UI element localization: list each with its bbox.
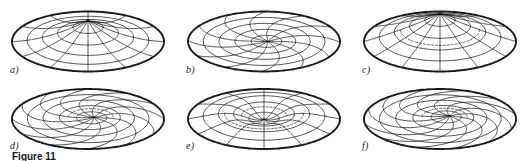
- surface-plot-a: [0, 0, 176, 77]
- surface-plot-b: [176, 0, 352, 77]
- panel-label-b: b): [186, 65, 195, 75]
- panel-label-c: c): [362, 65, 370, 75]
- figure-root: a) b) c) d) e) f) Figure 11: [0, 0, 528, 161]
- figure-caption: Figure 11: [12, 152, 56, 161]
- panel-label-e: e): [186, 141, 194, 151]
- panel-label-f: f): [362, 141, 369, 151]
- figure-caption-strip: Figure 11: [0, 152, 528, 161]
- surface-plot-d: [0, 77, 176, 155]
- surface-panel-e: e): [176, 77, 352, 155]
- surface-plot-e: [176, 77, 352, 155]
- surface-panel-d: d): [0, 77, 176, 155]
- panel-label-a: a): [10, 65, 19, 75]
- surface-panel-a: a): [0, 0, 176, 77]
- surface-plot-f: [352, 77, 528, 155]
- surface-panel-b: b): [176, 0, 352, 77]
- surface-panel-c: c): [352, 0, 528, 77]
- panel-grid: a) b) c) d) e) f): [0, 0, 528, 155]
- surface-plot-c: [352, 0, 528, 77]
- panel-label-d: d): [10, 141, 19, 151]
- surface-panel-f: f): [352, 77, 528, 155]
